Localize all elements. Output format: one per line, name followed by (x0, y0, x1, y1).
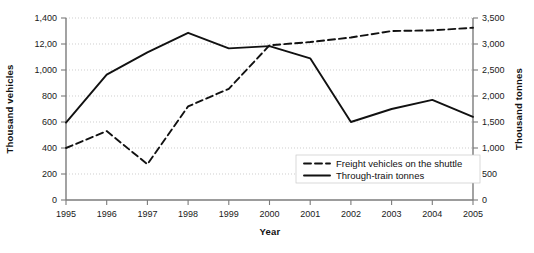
right-tick-label: 3,000 (482, 39, 505, 49)
x-tick-label: 2002 (341, 209, 361, 219)
x-tick-label: 1999 (219, 209, 239, 219)
left-tick-label: 800 (42, 91, 57, 101)
left-axis-tick-labels: 02004006008001,00012,001,400 (34, 13, 57, 205)
left-tick-label: 400 (42, 143, 57, 153)
x-tick-label: 1998 (178, 209, 198, 219)
left-axis-ticks (61, 18, 66, 200)
x-tick-label: 1996 (97, 209, 117, 219)
series-through-train-tonnes (66, 33, 473, 123)
gridlines (66, 18, 473, 174)
right-axis-title: Thousand tonnes (513, 68, 524, 150)
x-tick-label: 2005 (463, 209, 483, 219)
left-tick-label: 1,000 (34, 65, 57, 75)
left-tick-label: 1,400 (34, 13, 57, 23)
right-tick-label: 2,500 (482, 65, 505, 75)
right-tick-label: 3,500 (482, 13, 505, 23)
left-axis-title: Thousand vehicles (4, 65, 15, 154)
chart-legend: Freight vehicles on the shuttle Through-… (296, 155, 480, 183)
x-tick-label: 2004 (422, 209, 442, 219)
left-tick-label: 600 (42, 117, 57, 127)
right-tick-label: 0 (482, 195, 487, 205)
x-tick-label: 2001 (300, 209, 320, 219)
right-tick-label: 2,000 (482, 91, 505, 101)
left-tick-label: 12,00 (34, 39, 57, 49)
x-tick-label: 2000 (259, 209, 279, 219)
legend-label-freight-vehicles: Freight vehicles on the shuttle (336, 158, 462, 169)
x-tick-label: 1997 (137, 209, 157, 219)
legend-label-through-train-tonnes: Through-train tonnes (336, 170, 424, 181)
right-tick-label: 1,000 (482, 143, 505, 153)
right-tick-label: 1,500 (482, 117, 505, 127)
right-axis-tick-labels: 05001,0001,5002,0002,5003,0003,500 (482, 13, 505, 205)
x-axis-tick-labels: 1995199619971998199920002001200220032004… (56, 209, 483, 219)
line-chart: 02004006008001,00012,001,400 05001,0001,… (0, 0, 534, 253)
left-tick-label: 200 (42, 169, 57, 179)
x-axis-ticks (66, 200, 473, 205)
right-tick-label: 500 (482, 169, 497, 179)
chart-figure: 02004006008001,00012,001,400 05001,0001,… (0, 0, 534, 253)
x-axis-title: Year (260, 226, 281, 237)
left-tick-label: 0 (52, 195, 57, 205)
x-tick-label: 1995 (56, 209, 76, 219)
x-tick-label: 2003 (382, 209, 402, 219)
